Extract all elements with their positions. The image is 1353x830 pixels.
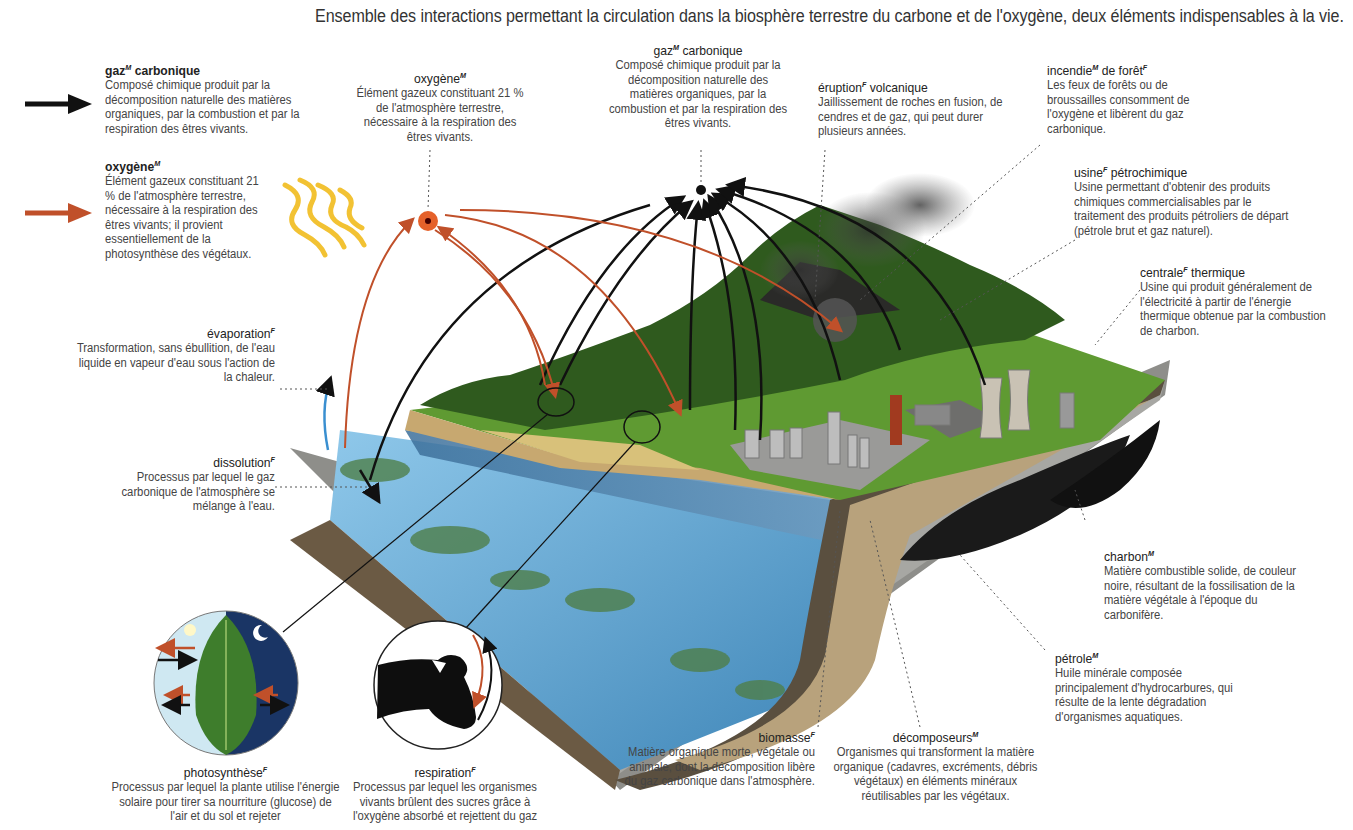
legend-co2-desc: Composé chimique produit par la décompos… — [105, 78, 303, 136]
label-eruption-volcanique: éruptionF volcanique Jaillissement de ro… — [818, 77, 1012, 139]
label-gaz-carbonique: gazM carbonique Composé chimique produit… — [608, 40, 788, 131]
evaporation-arrow — [324, 380, 330, 450]
legend-o2-term: oxygène — [105, 159, 154, 174]
legend-o2: oxygèneM Élément gazeux constituant 21 %… — [105, 156, 285, 262]
label-dissolution: dissolutionF Processus par lequel le gaz… — [109, 452, 276, 514]
label-incendie-de-foret: incendieM de forêtF Les feux de forêts o… — [1047, 60, 1209, 136]
co2-legend-arrow-icon — [25, 94, 92, 114]
co2-node-icon — [696, 185, 706, 195]
label-usine-petrochimique: usineF pétrochimique Usine permettant d'… — [1074, 162, 1308, 238]
sun-rays-icon — [285, 180, 364, 255]
label-centrale-thermique: centraleF thermique Usine qui produit gé… — [1140, 262, 1338, 338]
photosynthesis-inset — [154, 611, 298, 755]
legend-co2-term: gaz — [105, 63, 125, 78]
label-evaporation: évaporationF Transformation, sans ébulli… — [73, 323, 276, 385]
label-oxygene: oxygèneM Élément gazeux constituant 21 %… — [350, 68, 530, 144]
oil-derrick — [890, 395, 902, 445]
respiration-inset — [374, 621, 502, 749]
legend-o2-desc: Élément gazeux constituant 21 % de l'atm… — [105, 174, 272, 262]
o2-legend-arrow-icon — [25, 203, 92, 223]
legend-co2: gazM carbonique Composé chimique produit… — [105, 60, 339, 136]
label-charbon: charbonM Matière combustible solide, de … — [1104, 546, 1307, 622]
label-photosynthese: photosynthèseF Processus par lequel la p… — [111, 762, 341, 824]
label-biomasse: biomasseF Matière organique morte, végét… — [622, 727, 816, 789]
label-decomposeurs: décomposeursM Organismes qui transformen… — [830, 727, 1042, 803]
label-respiration: respirationF Processus par lequel les or… — [346, 762, 544, 824]
label-petrole: pétroleM Huile minérale composée princip… — [1055, 648, 1258, 724]
